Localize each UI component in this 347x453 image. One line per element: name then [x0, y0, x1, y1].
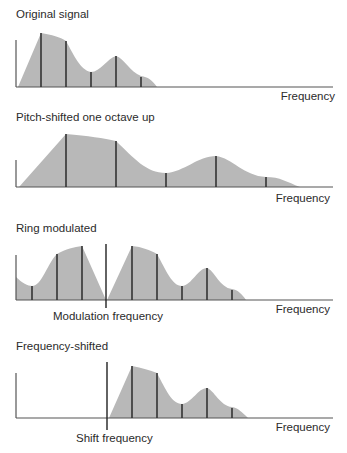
panel-ring-modulated — [16, 244, 333, 308]
panel-frequency-shifted — [16, 362, 333, 430]
panel-title-pitch-shifted: Pitch-shifted one octave up — [16, 111, 155, 123]
shift-frequency-label: Shift frequency — [76, 432, 153, 444]
x-axis-label: Frequency — [281, 90, 335, 102]
x-axis-label: Frequency — [276, 303, 330, 315]
x-axis-label: Frequency — [276, 421, 330, 433]
spectrum-envelope — [109, 366, 248, 418]
spectrum-envelope — [19, 134, 300, 187]
modulation-frequency-label: Modulation frequency — [53, 310, 163, 322]
spectrum-envelope-lower-sideband — [16, 246, 106, 300]
panel-original-signal — [16, 33, 333, 87]
panel-title-frequency-shifted: Frequency-shifted — [16, 340, 108, 352]
spectrum-envelope — [18, 33, 157, 87]
spectrum-envelope-upper-sideband — [107, 246, 246, 300]
panel-title-original: Original signal — [16, 8, 89, 20]
panel-pitch-shifted — [16, 134, 333, 187]
panel-title-ring-modulated: Ring modulated — [16, 222, 97, 234]
x-axis-label: Frequency — [276, 192, 330, 204]
